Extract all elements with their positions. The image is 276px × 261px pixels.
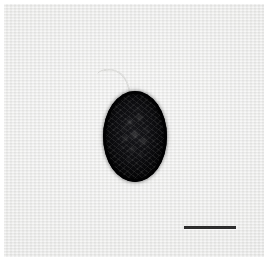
micrograph-figure (0, 0, 276, 261)
scale-bar (184, 226, 236, 229)
specimen-rim (103, 91, 167, 182)
micrograph-plate (4, 4, 264, 257)
specimen-body (103, 91, 167, 182)
specimen (100, 87, 170, 186)
